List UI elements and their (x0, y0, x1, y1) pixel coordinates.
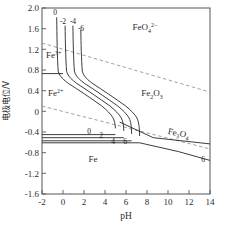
x-tick-label: 6 (124, 197, 129, 207)
y-tick-label: 0.8 (28, 65, 40, 75)
y-axis-ticks (42, 8, 46, 194)
region-label-fe3-plus-text: Fe (46, 50, 55, 60)
curve-label-top: 0 (53, 8, 57, 17)
y-axis-tick-labels: 2.0 1.6 1.2 0.8 0.4 0 -0.4 -0.8 -1.2 -1.… (25, 3, 40, 199)
x-axis-title: pH (120, 211, 132, 221)
region-label-feo4-2-minus: FeO42− (133, 22, 159, 34)
fe3-fe2o3-boundary-a2 (65, 26, 124, 131)
fe3-fe2o3-boundary-a4 (73, 26, 132, 134)
y-tick-label: 1.6 (28, 24, 40, 34)
x-axis-ticks (42, 190, 210, 194)
x-tick-label: 10 (164, 197, 174, 207)
curve-label-right: 6 (201, 155, 205, 164)
curve-label-bottom: 4 (111, 137, 115, 146)
y-tick-label: -1.2 (25, 169, 39, 179)
fe3o4-fe-boundary (140, 143, 210, 161)
x-tick-label: 0 (61, 197, 66, 207)
y-tick-label: -0.4 (25, 127, 40, 137)
curve-label-bottom: 2 (99, 131, 103, 140)
x-axis-tick-labels: -2 0 2 4 6 8 10 12 14 (38, 197, 215, 207)
region-label-fe2o3: Fe2O3 (141, 88, 163, 100)
x-tick-label: 8 (145, 197, 150, 207)
top-curve-labels: 0 -2 -4 -6 (53, 8, 84, 33)
curve-label-top: -4 (70, 17, 76, 26)
y-axis-title: 电极电位/V (1, 80, 11, 121)
curve-label-top: -6 (78, 24, 84, 33)
pourbaix-diagram-figure: 2.0 1.6 1.2 0.8 0.4 0 -0.4 -0.8 -1.2 -1.… (0, 0, 226, 228)
curve-label-bottom: 6 (123, 137, 127, 146)
region-label-fe-metal: Fe (89, 154, 98, 164)
region-label-fe2-plus: Fe2+ (48, 88, 64, 98)
y-tick-label: 2.0 (28, 3, 40, 13)
x-tick-label: 14 (206, 197, 216, 207)
x-tick-label: -2 (38, 197, 46, 207)
x-tick-label: 12 (185, 197, 194, 207)
oxygen-evolution-line (42, 43, 210, 92)
plot-frame (42, 8, 210, 194)
x-tick-label: 2 (82, 197, 87, 207)
curve-label-bottom: 0 (87, 127, 91, 136)
fe2o3-fe3o4-boundary (120, 122, 210, 144)
x-tick-label: 4 (103, 197, 108, 207)
y-tick-label: 1.2 (28, 45, 39, 55)
chart-canvas: 2.0 1.6 1.2 0.8 0.4 0 -0.4 -0.8 -1.2 -1.… (0, 0, 226, 228)
region-label-fe2-plus-text: Fe (48, 88, 57, 98)
fe3-fe2o3-boundary-a6 (81, 30, 140, 136)
curve-label-top: -2 (60, 17, 66, 26)
y-tick-label: 0.4 (28, 86, 40, 96)
y-tick-label: -0.8 (25, 148, 40, 158)
region-label-fe3-plus: Fe3+ (46, 50, 62, 60)
y-tick-label: 0 (35, 107, 40, 117)
